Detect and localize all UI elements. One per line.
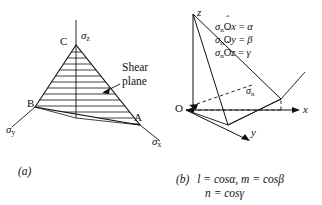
vertex-label-c: C [60, 36, 67, 47]
panel-b-caption: (b) l = cosα, m = cosβ [176, 172, 284, 187]
panel-b-axis-arrowheads [186, 107, 300, 141]
sigma-y-subscript: y [11, 128, 15, 137]
eq1-axis: x [231, 21, 236, 32]
axis-label-z: z [197, 7, 201, 18]
sigma-z-subscript: z [86, 34, 89, 43]
eq1-rhs: α [247, 21, 253, 32]
vertex-label-b: B [27, 98, 34, 109]
shear-plane-annotation-line2: plane [122, 76, 147, 88]
edge-yfoot-origin [186, 110, 228, 125]
origin-label-o: O [175, 103, 183, 114]
angle-equation-beta: σnOy = β [215, 34, 252, 47]
vertex-label-a: A [134, 112, 142, 123]
axis-label-y: y [251, 127, 256, 138]
axis-label-sigma-z: σz [81, 30, 90, 42]
axis-y-arrowhead [241, 134, 250, 141]
sigma-n-subscript: n [251, 90, 254, 97]
axis-label-sigma-x: σx [152, 136, 161, 148]
shear-plane-leader [102, 84, 120, 94]
panel-b-construction-solid [186, 72, 305, 125]
eq3-rhs: γ [247, 47, 251, 58]
plane-edge-extension [281, 72, 305, 99]
angle-equation-alpha: σnOx = α [215, 21, 253, 34]
panel-a-caption: (a) [18, 166, 31, 178]
panel-b-caption-line2: n = cosγ [205, 186, 244, 201]
figure-canvas: C B A σz σy σx Shear plane (a) z x y O σ… [0, 0, 322, 205]
eq3-axis: z [231, 47, 235, 58]
eq2-axis: y [231, 34, 236, 45]
normal-stress-label: σn [246, 86, 254, 97]
angle-equation-gamma: σnOz = γ [215, 47, 251, 60]
panel-b-caption-line1: l = cosα, m = cosβ [197, 173, 284, 185]
panel-b-caption-prefix: (b) [176, 173, 189, 185]
axis-label-sigma-y: σy [6, 124, 15, 136]
shear-plane-annotation-line1: Shear [122, 62, 148, 74]
axis-y-line [186, 110, 248, 140]
eq3-vertex: O [224, 47, 232, 59]
eq2-rhs: β [247, 34, 252, 45]
axis-sigma-y-line [12, 107, 35, 127]
sigma-x-subscript: x [157, 140, 161, 149]
axis-label-x: x [303, 104, 308, 115]
edge-yfoot-xfoot [228, 99, 281, 125]
axis-x-arrowhead [292, 107, 300, 113]
